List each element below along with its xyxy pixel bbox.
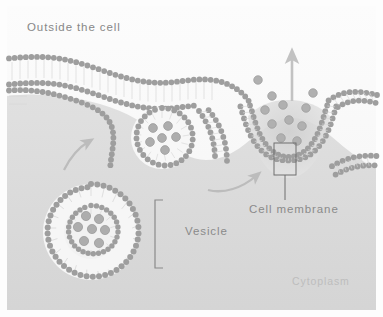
label-outside-the-cell: Outside the cell (27, 21, 121, 33)
background-fields (0, 0, 383, 317)
figure-canvas: Outside the cell Vesicle Cell membrane C… (0, 0, 383, 317)
label-cytoplasm: Cytoplasm (292, 275, 350, 287)
exocytosis-diagram (0, 0, 383, 317)
label-vesicle: Vesicle (185, 225, 228, 237)
label-cell-membrane: Cell membrane (249, 203, 339, 215)
